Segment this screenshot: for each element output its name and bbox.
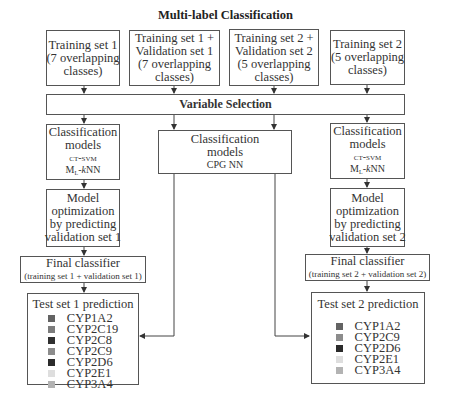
- model-prefix: M: [350, 163, 359, 174]
- model-ml-knn: ML-kNN: [66, 164, 101, 179]
- box-text: Model: [351, 192, 384, 205]
- left-optimization-box: Model optimization by predicting validat…: [46, 189, 120, 247]
- final-classifier-title: Final classifier: [331, 255, 405, 268]
- legend-swatch-icon: [336, 367, 343, 374]
- box-text: Validation set 2: [235, 45, 313, 58]
- model-suffix: NN: [86, 164, 100, 175]
- legend-swatch-icon: [48, 359, 55, 366]
- final-classifier-subtitle: (training set 2 + validation set 2): [309, 268, 427, 280]
- training-validation-set-1-box: Training set 1 + Validation set 1 (7 ove…: [129, 30, 220, 86]
- training-set-1-box: Training set 1 (7 overlapping classes): [46, 30, 120, 86]
- legend-swatch-icon: [336, 356, 343, 363]
- box-text: classes): [155, 71, 194, 84]
- model-ct-svm: ct-svm: [69, 152, 96, 164]
- box-text: Training set 1: [49, 39, 118, 52]
- legend-item: CYP3A4: [336, 365, 401, 376]
- box-text: optimization: [336, 205, 399, 218]
- legend-swatch-icon: [48, 381, 55, 388]
- box-text: Training set 2 +: [234, 32, 313, 45]
- box-text: classes): [255, 71, 294, 84]
- final-classifier-subtitle: (training set 1 + validation set 1): [24, 270, 142, 282]
- box-text: validation set 2: [329, 231, 405, 244]
- box-text: Classification: [333, 125, 402, 138]
- legend-label: CYP3A4: [67, 379, 113, 390]
- legend-label: CYP3A4: [355, 365, 401, 376]
- final-classifier-title: Final classifier: [46, 257, 120, 270]
- variable-selection-box: Variable Selection: [46, 94, 405, 115]
- box-text: validation set 1: [45, 231, 121, 244]
- box-text: Classification: [49, 126, 118, 139]
- cyp-legend: CYP1A2CYP2C19CYP2C8CYP2C9CYP2D6CYP2E1CYP…: [48, 313, 118, 390]
- diagram-title: Multi-label Classification: [0, 8, 451, 23]
- box-text: models: [349, 138, 385, 151]
- legend-swatch-icon: [48, 348, 55, 355]
- box-text: classes): [348, 64, 387, 77]
- prediction-title: Test set 2 prediction: [318, 297, 419, 311]
- box-text: (5 overlapping: [237, 58, 310, 71]
- box-text: models: [65, 139, 101, 152]
- box-text: (7 overlapping: [46, 52, 119, 65]
- legend-swatch-icon: [48, 370, 55, 377]
- legend-swatch-icon: [336, 345, 343, 352]
- model-suffix: NN: [370, 163, 384, 174]
- center-classification-box: Classification models CPG NN: [158, 130, 292, 174]
- legend-item: CYP3A4: [48, 379, 113, 390]
- cyp-legend: CYP1A2CYP2C9CYP2D6CYP2E1CYP3A4: [336, 321, 401, 376]
- training-set-2-box: Training set 2 (5 overlapping classes): [330, 30, 405, 85]
- box-text: classes): [64, 65, 103, 78]
- left-classification-box: Classification models ct-svm ML-kNN: [46, 124, 120, 180]
- legend-swatch-icon: [336, 323, 343, 330]
- legend-swatch-icon: [48, 337, 55, 344]
- model-cpg-nn: CPG NN: [207, 159, 243, 171]
- prediction-title: Test set 1 prediction: [33, 297, 134, 311]
- box-text: models: [207, 146, 243, 159]
- right-optimization-box: Model optimization by predicting validat…: [330, 188, 405, 247]
- test-set-1-prediction-box: Test set 1 prediction CYP1A2CYP2C19CYP2C…: [27, 293, 139, 385]
- model-ct-svm: ct-svm: [354, 151, 381, 163]
- left-final-classifier-box: Final classifier (training set 1 + valid…: [20, 256, 146, 283]
- box-text: by predicting: [334, 218, 400, 231]
- legend-swatch-icon: [48, 315, 55, 322]
- test-set-2-prediction-box: Test set 2 prediction CYP1A2CYP2C9CYP2D6…: [311, 292, 425, 384]
- legend-swatch-icon: [48, 326, 55, 333]
- variable-selection-label: Variable Selection: [179, 98, 272, 111]
- right-classification-box: Classification models ct-svm ML-kNN: [330, 123, 405, 179]
- legend-swatch-icon: [336, 334, 343, 341]
- model-ml-knn: ML-kNN: [350, 163, 385, 178]
- training-validation-set-2-box: Training set 2 + Validation set 2 (5 ove…: [229, 29, 319, 86]
- right-final-classifier-box: Final classifier (training set 2 + valid…: [305, 254, 430, 281]
